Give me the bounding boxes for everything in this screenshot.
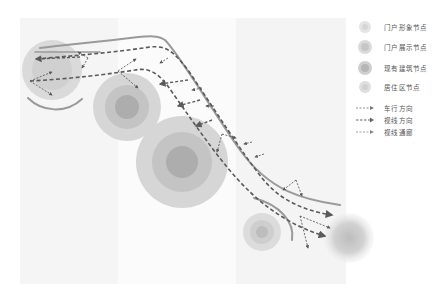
node-residential <box>243 213 281 251</box>
legend-item-gateway-image: 门户形象节点 <box>356 20 374 34</box>
legend-item-sight-corridor: 视线通廊 <box>356 125 374 139</box>
legend-label: 车行方向 <box>384 103 413 113</box>
dashed-arrow-corridor-icon <box>356 125 374 139</box>
gateway-image-node-icon <box>356 20 374 34</box>
node-gateway-bottom-right <box>324 213 374 263</box>
existing-building-node-icon <box>356 61 374 75</box>
node-existing-building-2 <box>136 116 228 208</box>
legend-label: 门户展示节点 <box>384 42 428 52</box>
legend-label: 视线方向 <box>384 115 413 125</box>
node-top-left <box>22 40 82 100</box>
legend-item-gateway-display: 门户展示节点 <box>356 40 374 54</box>
legend-label: 视线通廊 <box>384 127 413 137</box>
legend-item-residential: 居住区节点 <box>356 80 374 94</box>
residential-node-icon <box>356 80 374 94</box>
legend-label: 居住区节点 <box>384 82 421 92</box>
legend-label: 现有建筑节点 <box>384 63 428 73</box>
gateway-display-node-icon <box>356 40 374 54</box>
legend-label: 门户形象节点 <box>384 22 428 32</box>
legend-item-existing-building: 现有建筑节点 <box>356 61 374 75</box>
site-analysis-diagram <box>0 0 444 304</box>
